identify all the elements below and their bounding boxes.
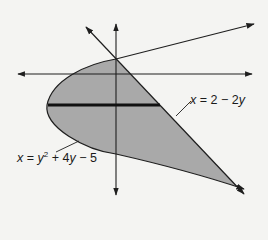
shaded-region [47,59,238,187]
var-y: y [239,93,245,107]
equals-sign: = [23,151,37,165]
linear-term: + 4 [48,151,69,165]
line-equation-rest: = 2 − 2 [196,93,238,107]
constant-term: − 5 [76,151,97,165]
parabola-equation-label: x = y2 + 4y − 5 [17,151,97,165]
line-equation-label: x = 2 − 2y [190,94,245,107]
line-label-pointer [176,101,191,116]
